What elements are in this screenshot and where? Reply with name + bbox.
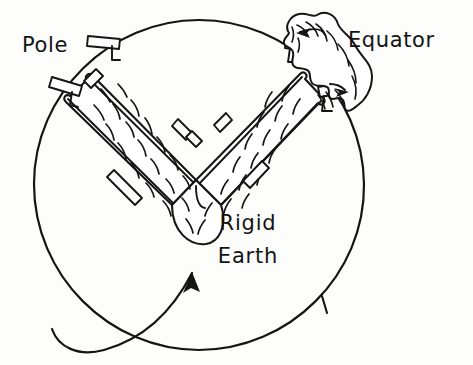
water-dash xyxy=(118,84,127,97)
rotation-arrow-curve xyxy=(52,273,192,352)
equator-tick-line xyxy=(322,296,327,313)
clamp-bracket xyxy=(107,170,142,205)
label-rigid: Rigid xyxy=(220,211,277,235)
rotation-arrow-head xyxy=(183,272,200,293)
label-pole: Pole xyxy=(22,33,68,57)
clamp-bracket xyxy=(214,113,232,132)
support-rod xyxy=(49,77,82,96)
equator-tick-mark xyxy=(322,296,327,313)
support-rod xyxy=(87,36,120,49)
tube-right-arm xyxy=(196,73,324,206)
water-dash xyxy=(131,100,139,116)
diagram-canvas: Pole Equator Rigid Earth xyxy=(0,0,473,365)
water-dash xyxy=(242,194,249,208)
tube-right-arm-body xyxy=(196,73,324,205)
clamp-bracket xyxy=(186,131,202,147)
label-equator: Equator xyxy=(348,28,435,52)
rotation-direction-arrow xyxy=(52,272,200,352)
label-earth: Earth xyxy=(218,244,278,268)
figure-root: Pole Equator Rigid Earth xyxy=(0,0,473,365)
